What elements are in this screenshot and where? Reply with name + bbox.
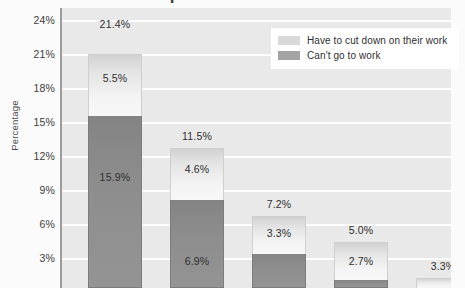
bar-group-2[interactable]: 11.5% 4.6% 6.9% xyxy=(170,132,224,288)
bar-group-5[interactable]: 3.3% xyxy=(416,262,451,288)
bar-total-label-1: 21.4% xyxy=(88,18,142,30)
legend-label-cut-down: Have to cut down on their work xyxy=(307,35,447,46)
chart-legend: Have to cut down on their work Can't go … xyxy=(271,28,459,69)
legend-item-cant-work[interactable]: Can't go to work xyxy=(278,48,454,63)
chart-title-text: Impact of condition on work xyxy=(150,0,377,5)
bar-segment-dark-4[interactable] xyxy=(334,280,388,288)
bar-light-label-1: 5.5% xyxy=(88,72,142,84)
y-tick-3: 3% xyxy=(7,252,55,264)
legend-item-cut-down[interactable]: Have to cut down on their work xyxy=(278,33,454,48)
legend-label-cant-work: Can't go to work xyxy=(307,50,381,61)
bar-total-label-4: 5.0% xyxy=(334,224,388,236)
y-tick-6: 6% xyxy=(7,218,55,230)
legend-swatch-light-icon xyxy=(278,36,300,45)
bar-group-1[interactable]: 21.4% 5.5% 15.9% xyxy=(88,20,142,288)
bar-group-4[interactable]: 5.0% 2.7% xyxy=(334,226,388,288)
bar-segment-dark-1[interactable] xyxy=(88,116,142,288)
y-tick-9: 9% xyxy=(7,184,55,196)
bar-total-label-5: 3.3% xyxy=(416,260,451,272)
bar-dark-label-2: 6.9% xyxy=(170,255,224,267)
bar-total-label-3: 7.2% xyxy=(252,198,306,210)
stacked-bar-chart: Impact of condition on work Percentage 2… xyxy=(0,0,465,288)
y-tick-12: 12% xyxy=(7,150,55,162)
bar-light-label-3: 3.3% xyxy=(252,227,306,239)
bar-segment-light-5[interactable] xyxy=(416,278,451,288)
chart-title-cropped: Impact of condition on work xyxy=(0,0,465,7)
bar-light-label-2: 4.6% xyxy=(170,163,224,175)
y-tick-21: 21% xyxy=(7,48,55,60)
bar-segment-light-1[interactable] xyxy=(88,54,142,116)
y-axis-tick-labels: 24% 21% 18% 15% 12% 9% 6% 3% xyxy=(0,0,55,288)
bar-segment-dark-2[interactable] xyxy=(170,200,224,288)
y-tick-24: 24% xyxy=(7,14,55,26)
bar-total-label-2: 11.5% xyxy=(170,130,224,142)
y-tick-18: 18% xyxy=(7,82,55,94)
bar-segment-dark-3[interactable] xyxy=(252,254,306,288)
bar-light-label-4: 2.7% xyxy=(334,255,388,267)
y-tick-15: 15% xyxy=(7,116,55,128)
legend-swatch-dark-icon xyxy=(278,51,300,60)
bar-group-3[interactable]: 7.2% 3.3% xyxy=(252,200,306,288)
bar-dark-label-1: 15.9% xyxy=(88,171,142,183)
